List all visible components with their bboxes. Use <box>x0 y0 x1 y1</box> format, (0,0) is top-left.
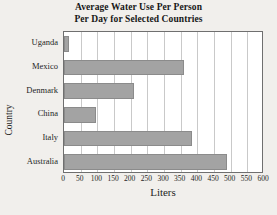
bar-row <box>64 36 262 52</box>
x-axis-tick-labels: 050100150200250300350400450500550600 <box>63 174 263 186</box>
chart-title: Average Water Use Per Person Per Day for… <box>0 2 277 25</box>
y-tick-label-uganda: Uganda <box>32 38 58 47</box>
x-tick-label-0: 0 <box>61 174 65 183</box>
bar-row <box>64 83 262 99</box>
x-tick-label-50: 50 <box>76 174 84 183</box>
bar-row <box>64 107 262 123</box>
bar-denmark <box>64 83 134 99</box>
x-tick-label-500: 500 <box>224 174 235 183</box>
y-tick-label-china: China <box>38 109 58 118</box>
bar-row <box>64 131 262 147</box>
x-tick-label-400: 400 <box>191 174 202 183</box>
bar-italy <box>64 131 192 147</box>
bar-row <box>64 154 262 170</box>
y-axis-title: Country <box>4 90 14 150</box>
plot-area <box>63 31 263 173</box>
x-tick-label-550: 550 <box>241 174 252 183</box>
bar-row <box>64 60 262 76</box>
y-tick-label-australia: Australia <box>27 157 58 166</box>
bar-chart: Average Water Use Per Person Per Day for… <box>0 0 277 215</box>
y-tick-label-mexico: Mexico <box>32 62 58 71</box>
bars-layer <box>64 32 262 172</box>
bar-uganda <box>64 36 69 52</box>
y-axis-category-labels: Country UgandaMexicoDenmarkChinaItalyAus… <box>0 31 61 173</box>
x-tick-label-300: 300 <box>157 174 168 183</box>
x-tick-label-200: 200 <box>124 174 135 183</box>
x-axis-title: Liters <box>63 186 263 198</box>
y-tick-label-denmark: Denmark <box>26 86 58 95</box>
x-tick-label-100: 100 <box>91 174 102 183</box>
bar-china <box>64 107 96 123</box>
bar-mexico <box>64 60 184 76</box>
bar-australia <box>64 154 227 170</box>
x-tick-label-600: 600 <box>257 174 268 183</box>
y-tick-label-italy: Italy <box>42 133 58 142</box>
x-tick-label-150: 150 <box>107 174 118 183</box>
x-tick-label-450: 450 <box>207 174 218 183</box>
chart-title-line-2: Per Day for Selected Countries <box>0 14 277 26</box>
x-tick-label-250: 250 <box>141 174 152 183</box>
chart-title-line-1: Average Water Use Per Person <box>0 2 277 14</box>
x-tick-label-350: 350 <box>174 174 185 183</box>
